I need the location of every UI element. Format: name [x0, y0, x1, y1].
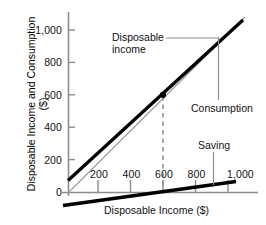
- x-tick-label-600: 600: [151, 169, 177, 180]
- y-axis-ticks: [69, 30, 76, 160]
- y-tick-label-200: 200: [18, 155, 62, 166]
- y-axis-title: Disposable Income and Consumption ($): [25, 11, 49, 197]
- x-tick-label-800: 800: [184, 169, 210, 180]
- y-tick-label-0: 0: [18, 187, 62, 198]
- disposable-income-annotation-line1: Disposable: [112, 32, 164, 44]
- x-axis-title: Disposable Income ($): [104, 205, 209, 216]
- chart-figure: Disposable Income and Consumption ($) 1,…: [0, 0, 266, 225]
- x-tick-label-400: 400: [119, 169, 145, 180]
- consumption-annotation: Consumption: [191, 103, 253, 114]
- y-tick-label-1000: 1,000: [18, 25, 62, 36]
- disposable-income-annotation: Disposable income: [112, 32, 164, 55]
- x-tick-label-200: 200: [86, 169, 112, 180]
- y-tick-label-800: 800: [18, 57, 62, 68]
- y-axis-title-wrapper: Disposable Income and Consumption ($): [25, 11, 41, 197]
- saving-annotation: Saving: [198, 140, 230, 151]
- y-tick-label-400: 400: [18, 122, 62, 133]
- y-tick-label-600: 600: [18, 90, 62, 101]
- x-tick-label-1000: 1,000: [227, 169, 261, 180]
- saving-line: [63, 182, 236, 206]
- breakeven-point-dot: [160, 92, 166, 98]
- disposable-income-annotation-line2: income: [112, 44, 164, 56]
